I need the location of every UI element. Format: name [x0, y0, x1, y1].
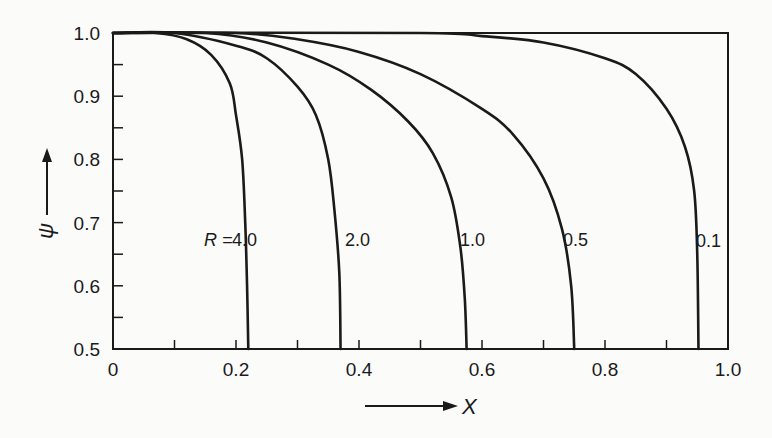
chart: 00.20.40.60.81.00.50.60.70.80.91.0 4.02.…: [0, 0, 772, 438]
y-axis-title: ψ: [33, 223, 58, 239]
curve-label-0-1: 0.1: [696, 231, 721, 251]
curve-r-4-0: [113, 33, 248, 349]
curves: [113, 32, 698, 349]
x-tick-label: 0.8: [592, 359, 618, 380]
x-tick-label: 0.6: [469, 359, 495, 380]
curve-r-0-1: [113, 33, 698, 349]
curve-r-0-5: [113, 33, 574, 349]
curve-label-1-0: 1.0: [460, 230, 485, 250]
y-tick-label: 1.0: [74, 23, 100, 44]
x-tick-label: 0: [108, 359, 119, 380]
y-tick-label: 0.7: [74, 213, 100, 234]
axis-tick-labels: 00.20.40.60.81.00.50.60.70.80.91.0: [74, 23, 742, 380]
plot-frame: [113, 33, 728, 349]
curve-label-4-0: 4.0: [232, 230, 257, 250]
curve-label-0-5: 0.5: [563, 230, 588, 250]
x-tick-label: 1.0: [715, 359, 741, 380]
x-axis-title: X: [461, 394, 478, 419]
curve-label-2-0: 2.0: [345, 230, 370, 250]
x-axis-arrow: [365, 401, 458, 411]
y-tick-label: 0.9: [74, 86, 100, 107]
x-tick-label: 0.2: [223, 359, 249, 380]
axis-ticks: [113, 65, 667, 349]
curve-labels: 4.02.01.00.50.1: [232, 230, 721, 251]
y-axis-arrow: [42, 148, 52, 215]
y-tick-label: 0.6: [74, 276, 100, 297]
r-prefix-label: R =: [204, 230, 233, 250]
y-tick-label: 0.8: [74, 149, 100, 170]
y-tick-label: 0.5: [74, 339, 100, 360]
x-tick-label: 0.4: [346, 359, 373, 380]
